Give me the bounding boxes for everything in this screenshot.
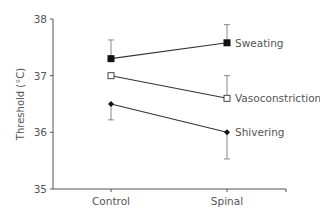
diamond-marker [224, 129, 230, 135]
y-tick-label: 35 [34, 183, 47, 195]
series-group: SweatingVasoconstrictionShivering [108, 25, 320, 159]
open-square-marker [224, 95, 230, 101]
y-tick-label: 36 [34, 126, 48, 138]
series-label: Sweating [235, 37, 284, 49]
series-vasoconstriction: Vasoconstriction [108, 73, 320, 105]
filled-square-marker [108, 55, 115, 62]
x-tick-label: Control [92, 195, 130, 207]
x-tick-label: Spinal [211, 195, 243, 207]
series-label: Vasoconstriction [235, 92, 320, 104]
series-line [111, 43, 227, 59]
open-square-marker [108, 73, 114, 79]
chart: 35363738ControlSpinal SweatingVasoconstr… [0, 0, 320, 217]
series-sweating: Sweating [108, 25, 284, 63]
y-tick-label: 38 [34, 13, 47, 25]
series-shivering: Shivering [108, 101, 284, 159]
diamond-marker [108, 101, 114, 107]
y-tick-label: 37 [34, 70, 47, 82]
series-line [111, 104, 227, 132]
filled-square-marker [224, 39, 231, 46]
y-axis-title: Threshold (°C) [15, 68, 26, 141]
series-line [111, 76, 227, 99]
series-label: Shivering [235, 126, 284, 138]
